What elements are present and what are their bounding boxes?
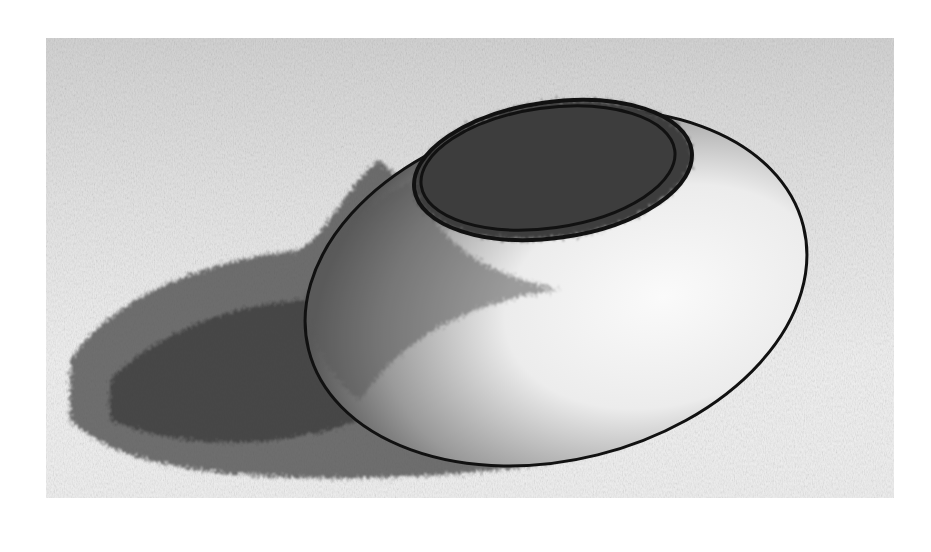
pencil-drawing-of-bowl [0, 0, 931, 552]
drawing-svg [0, 0, 931, 552]
